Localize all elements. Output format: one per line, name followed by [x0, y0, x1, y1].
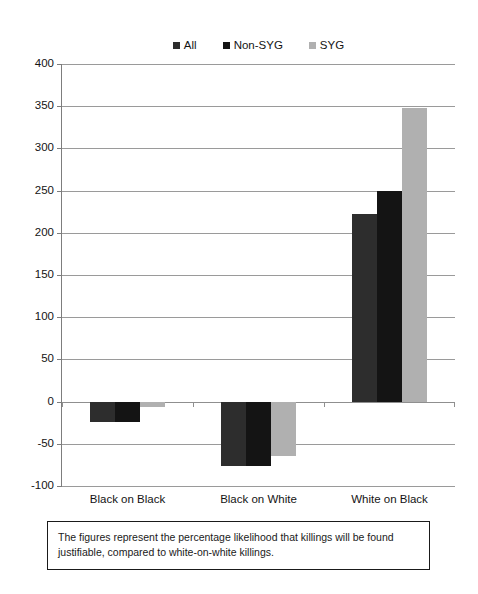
x-tick-end	[454, 402, 455, 407]
y-tick-350	[57, 106, 62, 107]
y-axis-label-300: 300	[35, 143, 54, 155]
y-tick-400	[57, 64, 62, 65]
legend-swatch-icon	[173, 42, 180, 49]
y-axis-label--100: -100	[31, 480, 54, 492]
y-tick-300	[57, 148, 62, 149]
bar-syg-black-on-white[interactable]	[271, 402, 296, 457]
x-tick-1	[193, 402, 194, 407]
bar-syg-white-on-black[interactable]	[402, 108, 427, 402]
gridline--100	[62, 486, 455, 487]
bar-all-black-on-white[interactable]	[221, 402, 246, 466]
y-axis-label-150: 150	[35, 269, 54, 281]
y-axis-label-350: 350	[35, 100, 54, 112]
legend-entry-non-syg[interactable]: Non-SYG	[223, 40, 283, 52]
legend-entry-syg[interactable]: SYG	[309, 40, 344, 52]
legend-entry-all[interactable]: All	[173, 40, 197, 52]
caption-box: The figures represent the percentage lik…	[47, 521, 430, 570]
y-axis-label-250: 250	[35, 185, 54, 197]
y-axis-label-400: 400	[35, 58, 54, 70]
x-tick-2	[324, 402, 325, 407]
bar-group-white-on-black	[352, 64, 427, 486]
y-tick-50	[57, 359, 62, 360]
y-tick--100	[57, 486, 62, 487]
legend-swatch-icon	[309, 42, 316, 49]
legend-label: All	[184, 40, 197, 52]
x-axis-category-label-1: Black on White	[220, 494, 297, 506]
caption-text: The figures represent the percentage lik…	[58, 530, 419, 560]
bar-all-black-on-black[interactable]	[90, 402, 115, 422]
legend-swatch-icon	[223, 42, 230, 49]
bar-non-syg-white-on-black[interactable]	[377, 191, 402, 401]
y-axis-label-50: 50	[41, 354, 54, 366]
x-axis-category-label-2: White on Black	[351, 494, 428, 506]
x-axis-category-label-0: Black on Black	[90, 494, 165, 506]
plot-area-wrapper: 400350300250200150100500-50-100Black on …	[62, 64, 455, 486]
bar-group-black-on-black	[90, 64, 165, 486]
y-tick-100	[57, 317, 62, 318]
y-tick-200	[57, 233, 62, 234]
bar-group-black-on-white	[221, 64, 296, 486]
y-axis-label--50: -50	[37, 438, 54, 450]
chart-legend: AllNon-SYGSYG	[62, 36, 455, 56]
bar-chart-figure: AllNon-SYGSYG 400350300250200150100500-5…	[0, 0, 478, 594]
bar-non-syg-black-on-black[interactable]	[115, 402, 140, 422]
y-tick-150	[57, 275, 62, 276]
legend-label: Non-SYG	[234, 40, 283, 52]
legend-label: SYG	[320, 40, 344, 52]
y-axis-label-100: 100	[35, 311, 54, 323]
bar-all-white-on-black[interactable]	[352, 214, 377, 401]
y-axis-label-200: 200	[35, 227, 54, 239]
y-tick--50	[57, 444, 62, 445]
x-tick-0	[62, 402, 63, 407]
y-axis-label-0: 0	[48, 396, 54, 408]
bar-syg-black-on-black[interactable]	[140, 402, 165, 407]
plot-area: 400350300250200150100500-50-100Black on …	[62, 64, 455, 486]
y-tick-250	[57, 191, 62, 192]
bar-non-syg-black-on-white[interactable]	[246, 402, 271, 466]
